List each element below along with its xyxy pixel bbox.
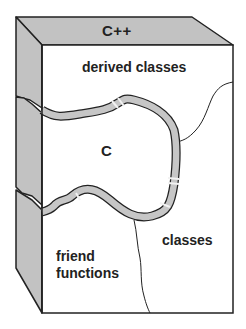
label-derived-classes: derived classes (82, 60, 186, 74)
left-face-middle (16, 97, 42, 205)
label-cpp: C++ (102, 23, 132, 38)
cpp-block-diagram: C++ derived classes C classes friend fun… (0, 0, 246, 329)
left-face-lower (16, 190, 42, 313)
label-friend-functions: friend functions (56, 248, 136, 282)
label-classes: classes (162, 233, 213, 247)
label-c: C (101, 143, 112, 158)
